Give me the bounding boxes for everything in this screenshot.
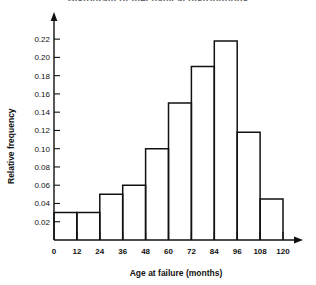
x-axis-tick-label: 108: [253, 247, 267, 256]
x-axis-tick-label: 24: [95, 247, 104, 256]
histogram-bar: [191, 67, 214, 240]
y-axis-tick-label: 0.22: [34, 35, 50, 44]
y-axis-tick-label: 0.14: [34, 108, 50, 117]
y-axis-label: Relative frequency: [6, 108, 16, 184]
x-axis-tick-label: 72: [187, 247, 196, 256]
y-axis-ticks: [54, 39, 60, 222]
y-axis-tick-label: 0.16: [34, 90, 50, 99]
histogram-bar: [77, 213, 100, 240]
y-axis-tick-label: 0.20: [34, 53, 50, 62]
y-axis-tick-label: 0.18: [34, 72, 50, 81]
y-axis-tick-labels: 0.020.040.060.080.100.120.140.160.180.20…: [34, 35, 50, 227]
x-axis-ticks: [77, 232, 283, 240]
x-axis-tick-label: 96: [233, 247, 242, 256]
y-axis-tick-label: 0.10: [34, 145, 50, 154]
x-axis-tick-label: 48: [141, 247, 150, 256]
bars-group: [54, 41, 283, 240]
histogram-bar: [100, 194, 123, 240]
histogram-bar: [54, 213, 77, 240]
y-axis-tick-label: 0.12: [34, 126, 50, 135]
histogram-bar: [146, 149, 169, 240]
y-axis-arrowhead: [51, 12, 58, 21]
x-axis-label: Age at failure (months): [130, 268, 223, 278]
x-axis-tick-label: 12: [72, 247, 81, 256]
y-axis-tick-label: 0.06: [34, 181, 50, 190]
x-axis-tick-label: 60: [164, 247, 173, 256]
axes: [51, 12, 303, 243]
histogram-bar: [214, 41, 237, 240]
x-axis-tick-labels: 01224364860728496108120: [52, 247, 290, 256]
histogram-bar: [123, 185, 146, 240]
histogram-bar: [237, 132, 260, 240]
x-axis-arrowhead: [294, 237, 303, 244]
histogram-plot: 0.020.040.060.080.100.120.140.160.180.20…: [0, 0, 316, 285]
histogram-figure: Histogram of mechanical distributions 0.…: [0, 0, 316, 285]
y-axis-tick-label: 0.02: [34, 218, 50, 227]
histogram-bar: [169, 103, 192, 240]
y-axis-tick-label: 0.08: [34, 163, 50, 172]
y-axis-tick-label: 0.04: [34, 199, 50, 208]
x-axis-tick-label: 0: [52, 247, 57, 256]
histogram-bar: [260, 199, 283, 240]
x-axis-tick-label: 36: [118, 247, 127, 256]
x-axis-tick-label: 84: [210, 247, 219, 256]
x-axis-tick-label: 120: [276, 247, 290, 256]
